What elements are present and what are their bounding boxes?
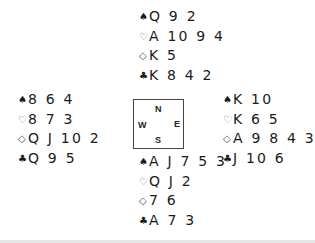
north-hand: ♠Q 9 2 ♡A 10 9 4 ◇K 5 ♣K 8 4 2 [139,7,225,85]
west-clubs: ♣Q 9 5 [18,149,101,169]
east-hearts: ♡K 6 5 [223,110,315,130]
west-spades: ♠8 6 4 [18,90,101,110]
spade-icon: ♠ [18,90,28,110]
compass-north: N [155,104,162,114]
north-diamonds: ◇K 5 [139,46,225,66]
heart-icon: ♡ [139,27,149,47]
south-diamonds: ◇7 6 [139,191,227,211]
diamond-icon: ◇ [18,129,28,149]
north-clubs: ♣K 8 4 2 [139,66,225,86]
spade-icon: ♠ [223,90,233,110]
heart-icon: ♡ [18,110,28,130]
compass-east: E [174,119,180,129]
compass-south: S [155,135,161,145]
diamond-icon: ◇ [139,191,149,211]
west-diamonds: ◇Q J 10 2 [18,129,101,149]
south-clubs: ♣A 7 3 [139,211,227,231]
south-hearts: ♡Q J 2 [139,172,227,192]
diamond-icon: ◇ [139,46,149,66]
east-diamonds: ◇A 9 8 4 3 [223,129,315,149]
east-spades: ♠K 10 [223,90,315,110]
club-icon: ♣ [139,66,149,86]
club-icon: ♣ [139,211,149,231]
east-hand: ♠K 10 ♡K 6 5 ◇A 9 8 4 3 ♣J 10 6 [223,90,315,168]
heart-icon: ♡ [139,172,149,192]
spade-icon: ♠ [139,152,149,172]
east-clubs: ♣J 10 6 [223,149,315,169]
west-hand: ♠8 6 4 ♡8 7 3 ◇Q J 10 2 ♣Q 9 5 [18,90,101,168]
south-hand: ♠A J 7 5 3 ♡Q J 2 ◇7 6 ♣A 7 3 [139,152,227,230]
club-icon: ♣ [18,149,28,169]
compass-box: N W E S [133,99,184,149]
west-hearts: ♡8 7 3 [18,110,101,130]
compass-west: W [138,120,147,130]
spade-icon: ♠ [139,7,149,27]
north-spades: ♠Q 9 2 [139,7,225,27]
north-hearts: ♡A 10 9 4 [139,27,225,47]
diamond-icon: ◇ [223,129,233,149]
heart-icon: ♡ [223,110,233,130]
south-spades: ♠A J 7 5 3 [139,152,227,172]
